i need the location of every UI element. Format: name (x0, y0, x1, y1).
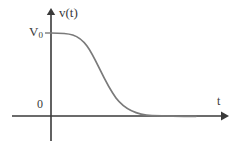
y-axis-label: v(t) (59, 6, 78, 19)
y-axis (47, 8, 55, 141)
decay-curve (51, 33, 196, 116)
arrow-right-icon (221, 112, 229, 121)
origin-label: 0 (37, 98, 43, 110)
y-initial-value-text: V (29, 24, 38, 39)
y-initial-value-label: V0 (29, 25, 43, 40)
x-axis-label: t (217, 95, 220, 107)
plot-canvas (0, 0, 244, 149)
figure-container: v(t) V0 0 t (0, 0, 244, 149)
arrow-up-icon (47, 8, 55, 15)
y-initial-value-subscript: 0 (38, 30, 43, 40)
